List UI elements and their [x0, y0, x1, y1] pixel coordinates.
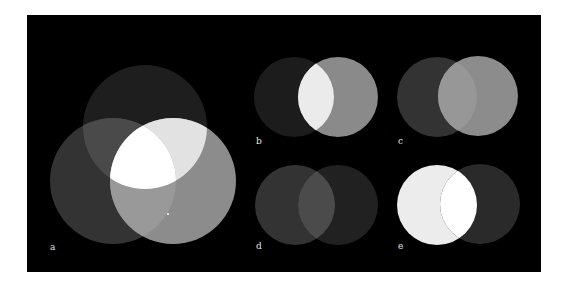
- venn-figure: abcde: [0, 0, 567, 285]
- panel-label-c: c: [398, 136, 403, 146]
- panel-label-e: e: [398, 241, 403, 251]
- panel-label-d: d: [256, 241, 262, 251]
- panel-label-b: b: [256, 136, 262, 146]
- panel-d: d: [255, 165, 378, 251]
- panel-label-a: a: [50, 242, 56, 252]
- dot-mark: [167, 213, 169, 215]
